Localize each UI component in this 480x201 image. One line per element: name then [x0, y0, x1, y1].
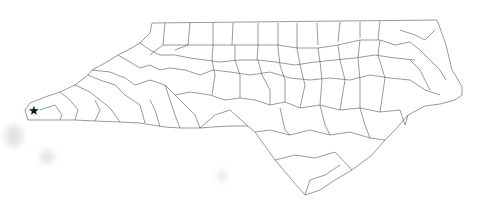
star-icon: ★ — [28, 104, 40, 117]
state-outline — [25, 20, 462, 195]
scan-smudge — [218, 170, 226, 182]
scan-smudge — [40, 150, 54, 164]
scan-smudge — [5, 125, 23, 147]
north-carolina-county-map — [0, 0, 480, 201]
